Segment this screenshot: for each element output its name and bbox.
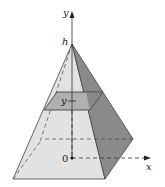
- origin-point: [70, 156, 73, 159]
- pyramid-diagram: y h y 0 x: [0, 0, 165, 187]
- x-axis-label: x: [146, 161, 152, 172]
- height-label: h: [62, 36, 68, 47]
- x-axis-arrow-icon: [144, 156, 151, 161]
- y-axis-label: y: [62, 7, 69, 18]
- origin-label: 0: [62, 153, 68, 164]
- y-axis-arrow-icon: [70, 11, 75, 18]
- section-label: y: [60, 95, 67, 106]
